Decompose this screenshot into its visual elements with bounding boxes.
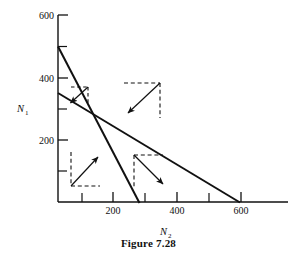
plot-canvas: 600 400 200 200 400 600 N 1 N 2 [0, 0, 297, 255]
vector-lower-left-arrow [71, 157, 98, 186]
vector-lower-right-annotation [134, 155, 163, 188]
y-axis-label: N [16, 103, 25, 114]
figure-container: 600 400 200 200 400 600 N 1 N 2 [0, 0, 297, 255]
y-axis-label-subscript: 1 [25, 109, 29, 117]
x-axis-label: N [159, 226, 168, 237]
axes-group [58, 15, 288, 202]
axis-titles-group: N 1 N 2 [16, 103, 172, 240]
vector-lower-right-arrow [134, 155, 163, 184]
vector-lower-left-annotation [71, 152, 100, 186]
steep-isocline-line [58, 47, 140, 204]
x-tick-label-600: 600 [234, 205, 249, 216]
y-tick-label-400: 400 [39, 73, 54, 84]
vector-upper-right-arrow [128, 83, 160, 113]
vector-upper-right-annotation [124, 83, 160, 118]
y-tick-labels-group: 600 400 200 [39, 10, 54, 146]
isoclines-group [58, 47, 240, 204]
y-tick-label-200: 200 [39, 135, 54, 146]
x-tick-label-400: 400 [170, 205, 185, 216]
x-tick-labels-group: 200 400 600 [106, 205, 249, 216]
x-tick-label-200: 200 [106, 205, 121, 216]
y-tick-label-600: 600 [39, 10, 54, 21]
figure-caption: Figure 7.28 [0, 237, 297, 249]
x-ticks-group [82, 192, 241, 202]
